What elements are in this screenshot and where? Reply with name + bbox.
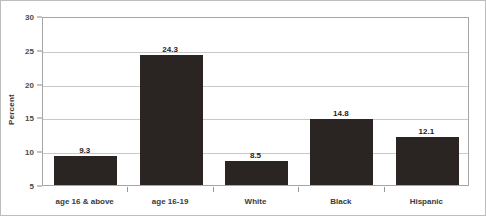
- bar: [225, 161, 288, 185]
- bar: [396, 137, 459, 185]
- x-axis-category-label: age 16 & above: [56, 197, 114, 206]
- x-axis-tick-mark: [384, 187, 385, 192]
- bar-value-label: 14.8: [333, 109, 349, 118]
- x-axis-category-label: Hispanic: [410, 197, 443, 206]
- bar-value-label: 24.3: [162, 45, 178, 54]
- y-axis-ticks: 30252015105: [1, 1, 42, 216]
- bar-value-label: 12.1: [419, 127, 435, 136]
- x-axis-category-label: White: [245, 197, 267, 206]
- bar-value-label: 9.3: [79, 146, 90, 155]
- gridline: [43, 52, 468, 53]
- x-axis-tick-mark: [298, 187, 299, 192]
- bar-value-label: 8.5: [250, 151, 261, 160]
- y-axis-tick-label: 5: [1, 182, 42, 191]
- bar: [140, 55, 203, 185]
- x-axis-tick-mark: [213, 187, 214, 192]
- y-axis-tick-label: 15: [1, 114, 42, 123]
- y-axis-tick-label: 25: [1, 46, 42, 55]
- bar-chart: Percent 30252015105 9.3age 16 & above24.…: [0, 0, 486, 216]
- gridline: [43, 86, 468, 87]
- x-axis-category-label: Black: [330, 197, 351, 206]
- y-axis-tick-label: 20: [1, 80, 42, 89]
- x-axis-category-label: age 16-19: [152, 197, 188, 206]
- bar: [54, 156, 117, 185]
- gridline: [43, 119, 468, 120]
- plot-area: [42, 17, 469, 186]
- y-axis-tick-label: 10: [1, 148, 42, 157]
- x-axis-tick-mark: [127, 187, 128, 192]
- bar: [310, 119, 373, 185]
- y-axis-tick-label: 30: [1, 13, 42, 22]
